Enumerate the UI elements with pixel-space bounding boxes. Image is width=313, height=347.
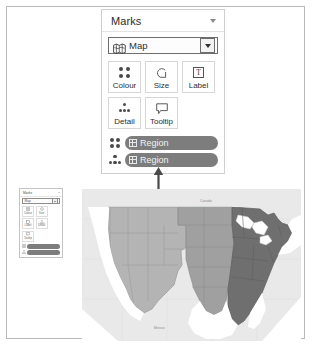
- shelf-button-tooltip[interactable]: Tooltip: [145, 97, 178, 129]
- label-text-icon: T: [193, 65, 204, 80]
- mini-caret-button: [52, 198, 59, 205]
- pill-colour-region[interactable]: Region: [125, 136, 218, 150]
- detail-dots-icon: [118, 101, 131, 116]
- mini-pill-list: [20, 242, 62, 258]
- mini-pill-row-colour: [22, 244, 60, 249]
- canada-area: [82, 189, 301, 207]
- shelf-button-size-label: Size: [154, 81, 170, 91]
- pill-detail-region-label: Region: [140, 155, 169, 165]
- mini-mark-type-dropdown: Map: [22, 198, 60, 204]
- pill-colour-region-label: Region: [140, 138, 169, 148]
- marks-title: Marks: [111, 15, 141, 27]
- chevron-down-icon: [58, 192, 60, 193]
- mark-type-dropdown[interactable]: Map: [108, 37, 218, 54]
- grid-dimension-icon: [129, 156, 137, 164]
- colour-dots-icon[interactable]: [108, 138, 122, 149]
- chevron-down-icon[interactable]: [210, 19, 216, 23]
- shelf-button-colour[interactable]: Colour: [108, 61, 141, 93]
- mini-mark-type-value: Map: [25, 199, 52, 203]
- mini-marks-title: Marks: [23, 191, 32, 195]
- map-visualization-panel[interactable]: Canada Mexico: [82, 189, 301, 341]
- mini-shelf-button-size: Size: [36, 206, 48, 217]
- mini-pill-row-detail: [22, 250, 60, 255]
- shelf-button-tooltip-label: Tooltip: [150, 117, 173, 127]
- screenshot-frame: Marks Map: [6, 6, 305, 339]
- shelf-button-grid: Colour Size T Label D: [102, 59, 224, 131]
- map-icon: [113, 40, 126, 51]
- shelf-button-detail-label: Detail: [114, 117, 134, 127]
- mark-type-value: Map: [129, 40, 200, 51]
- marks-card-header[interactable]: Marks: [102, 10, 224, 32]
- mini-shelf-button-label-label: Label: [25, 224, 32, 227]
- mini-shelf-button-size-label: Size: [39, 212, 44, 215]
- size-spiral-icon: [155, 65, 168, 80]
- shelf-button-label-label: Label: [189, 81, 209, 91]
- mini-shelf-button-label: Label: [22, 218, 34, 229]
- label-glyph: T: [193, 67, 204, 78]
- mini-shelf-button-detail: Detail: [36, 218, 48, 229]
- grid-dimension-icon: [129, 139, 137, 147]
- us-region-choropleth-map[interactable]: [82, 189, 301, 341]
- pill-detail-region[interactable]: Region: [125, 153, 218, 167]
- mini-shelf-button-colour-label: Colour: [24, 212, 32, 215]
- mark-type-caret-button[interactable]: [200, 38, 215, 53]
- shelf-button-size[interactable]: Size: [145, 61, 178, 93]
- colour-dots-icon: [119, 65, 130, 80]
- mini-pill-colour-region: [27, 244, 60, 249]
- caret-down-icon: [54, 201, 56, 202]
- mini-shelf-button-detail-label: Detail: [38, 224, 45, 227]
- mini-shelf-button-colour: Colour: [22, 206, 34, 217]
- shelf-button-label[interactable]: T Label: [182, 61, 215, 93]
- mini-shelf-button-tooltip-label: Tooltip: [24, 237, 32, 240]
- pill-row-colour-region: Region: [108, 136, 218, 150]
- mark-type-dropdown-wrap: Map: [102, 32, 224, 59]
- shelf-button-detail[interactable]: Detail: [108, 97, 141, 129]
- mini-shelf-button-tooltip: Tooltip: [22, 231, 34, 242]
- pill-row-detail-region: Region: [108, 153, 218, 167]
- caret-down-icon: [205, 44, 211, 48]
- tooltip-bubble-icon: [156, 101, 168, 116]
- detail-dots-icon[interactable]: [108, 155, 122, 166]
- mini-pill-detail-region: [27, 250, 60, 255]
- shelf-button-colour-label: Colour: [113, 81, 137, 91]
- mini-mark-type-wrap: Map: [20, 197, 62, 206]
- marks-card: Marks Map: [101, 9, 225, 174]
- mini-shelf-grid: Colour Size Label Detail: [20, 206, 62, 242]
- mini-marks-card-header: Marks: [20, 189, 62, 197]
- mini-marks-card: Marks Map Colour Size: [19, 188, 63, 258]
